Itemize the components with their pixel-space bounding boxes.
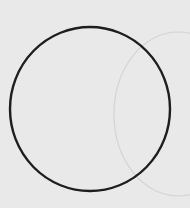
paper-canvas (0, 0, 190, 208)
drawing (0, 0, 190, 208)
paper-background (0, 0, 190, 208)
